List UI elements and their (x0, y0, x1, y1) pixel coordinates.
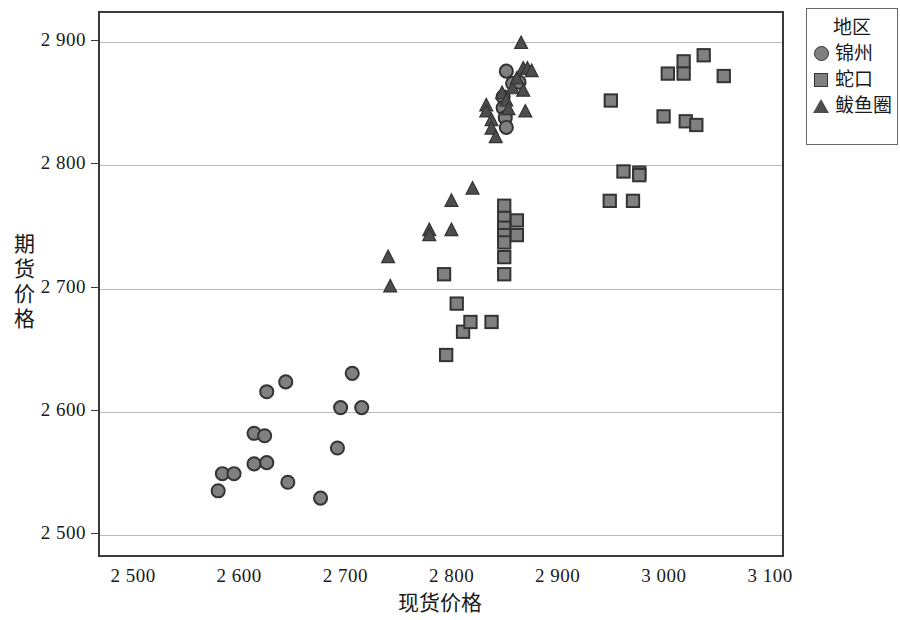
data-point (498, 200, 510, 212)
data-point (445, 223, 458, 236)
legend-label: 蛇口 (835, 70, 873, 89)
data-point (604, 195, 616, 207)
legend-entry-triangle[interactable]: 鲅鱼圈 (807, 96, 897, 115)
data-point (382, 250, 395, 263)
data-point (500, 65, 513, 78)
data-point (657, 110, 669, 122)
data-point (314, 492, 327, 505)
data-point (451, 297, 463, 309)
data-point (258, 429, 271, 442)
data-point (677, 55, 689, 67)
y-axis-title-char: 格 (12, 307, 36, 332)
data-point (355, 401, 368, 414)
data-point (677, 67, 689, 79)
data-point (440, 349, 452, 361)
y-tick-mark (91, 533, 98, 534)
data-point (498, 268, 510, 280)
data-point (498, 251, 510, 263)
series-triangle (382, 36, 538, 292)
series-square (438, 49, 730, 361)
legend-entry-list: 锦州蛇口鲅鱼圈 (807, 44, 897, 115)
triangle-marker-icon (812, 97, 830, 115)
data-point (718, 70, 730, 82)
chart-root: 期货价格 2 5002 6002 7002 8002 900 2 5002 60… (0, 0, 900, 620)
y-tick-label: 2 600 (0, 400, 86, 419)
data-point (227, 467, 240, 480)
data-point (605, 94, 617, 106)
data-point (485, 316, 497, 328)
data-point (212, 484, 225, 497)
y-tick-mark (91, 410, 98, 411)
x-tick-label: 2 900 (513, 566, 603, 585)
marker-glyph (814, 46, 829, 61)
x-tick-label: 2 700 (300, 566, 390, 585)
x-axis-title: 现货价格 (0, 592, 880, 614)
data-point (248, 457, 261, 470)
data-point (384, 279, 397, 292)
legend-title: 地区 (807, 18, 897, 37)
legend-entry-circle[interactable]: 锦州 (807, 44, 897, 63)
x-tick-label: 2 600 (194, 566, 284, 585)
data-point (511, 214, 523, 226)
plot-area (98, 11, 784, 557)
data-point (627, 195, 639, 207)
data-point (279, 375, 292, 388)
data-point (260, 456, 273, 469)
data-point (260, 385, 273, 398)
y-tick-label: 2 900 (0, 30, 86, 49)
data-point (519, 104, 532, 117)
data-point (281, 476, 294, 489)
y-tick-mark (91, 287, 98, 288)
data-point (445, 194, 458, 207)
data-point (438, 268, 450, 280)
data-point (662, 67, 674, 79)
x-tick-label: 3 100 (725, 566, 815, 585)
data-point (464, 316, 476, 328)
data-point (346, 367, 359, 380)
y-tick-label: 2 700 (0, 277, 86, 296)
x-tick-label: 2 800 (407, 566, 497, 585)
y-tick-mark (91, 163, 98, 164)
data-point (515, 36, 528, 49)
y-tick-label: 2 500 (0, 523, 86, 542)
legend: 地区 锦州蛇口鲅鱼圈 (806, 8, 898, 145)
series-circle (212, 65, 526, 505)
data-point (511, 229, 523, 241)
circle-marker-icon (812, 45, 830, 63)
data-point (617, 165, 629, 177)
data-point-layer (100, 13, 782, 555)
data-point (498, 236, 510, 248)
data-point (633, 169, 645, 181)
marker-glyph (813, 99, 829, 113)
data-point (331, 441, 344, 454)
marker-glyph (814, 73, 828, 87)
y-tick-label: 2 800 (0, 153, 86, 172)
y-tick-mark (91, 40, 98, 41)
data-point (690, 119, 702, 131)
data-point (466, 182, 479, 195)
data-point (500, 121, 513, 134)
y-axis-title-char: 期 (12, 232, 36, 257)
legend-label: 鲅鱼圈 (835, 96, 892, 115)
data-point (334, 401, 347, 414)
square-marker-icon (812, 71, 830, 89)
x-tick-label: 3 000 (619, 566, 709, 585)
x-tick-label: 2 500 (88, 566, 178, 585)
data-point (698, 49, 710, 61)
legend-label: 锦州 (835, 44, 873, 63)
legend-entry-square[interactable]: 蛇口 (807, 70, 897, 89)
